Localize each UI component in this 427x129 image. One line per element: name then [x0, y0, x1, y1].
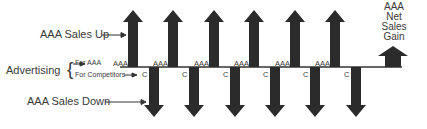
- competitor-marker: C: [344, 70, 349, 79]
- net-gain-label: AAA Net Sales Gain: [380, 2, 408, 42]
- competitor-marker: C: [303, 70, 308, 79]
- diagram-canvas: [0, 0, 427, 129]
- net-gain-arrow: [378, 46, 408, 67]
- for-competitors-label: For Competitors: [75, 71, 125, 78]
- competitor-marker: C: [263, 70, 268, 79]
- aaa-marker: AAA: [153, 59, 168, 68]
- advertising-label: Advertising: [6, 64, 60, 76]
- aaa-marker: AAA: [113, 59, 128, 68]
- sales-down-arrows: [144, 67, 366, 117]
- sales-up-label: AAA Sales Up: [40, 28, 109, 40]
- competitor-marker: C: [223, 70, 228, 79]
- brace-icon: {: [67, 59, 73, 78]
- competitor-marker: C: [142, 70, 147, 79]
- aaa-marker: AAA: [234, 59, 249, 68]
- sales-down-label: AAA Sales Down: [27, 95, 110, 107]
- for-aaa-label: For AAA: [75, 59, 101, 66]
- competitor-marker: C: [182, 70, 187, 79]
- net-gain-line: Gain: [380, 32, 408, 42]
- aaa-marker: AAA: [275, 59, 290, 68]
- aaa-marker: AAA: [315, 59, 330, 68]
- aaa-marker: AAA: [194, 59, 209, 68]
